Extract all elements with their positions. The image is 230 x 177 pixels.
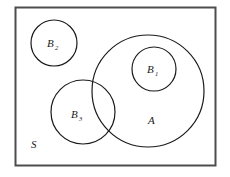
set-a-label: A (147, 114, 155, 126)
venn-diagram-figure: B 2 B 1 B 3 A S (0, 0, 230, 177)
universal-set-label: S (31, 138, 37, 150)
set-b1-label-text: B (147, 63, 154, 75)
set-b3-label-text: B (71, 108, 78, 120)
set-b1-label-subscript: 1 (155, 70, 158, 77)
venn-diagram-canvas: B 2 B 1 B 3 A S (0, 0, 230, 177)
set-b2-label-text: B (47, 37, 54, 49)
universal-set-rectangle (16, 8, 216, 166)
